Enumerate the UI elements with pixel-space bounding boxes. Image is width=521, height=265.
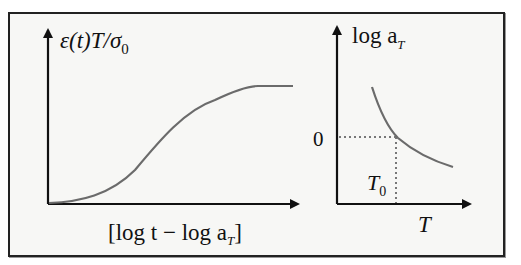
creep-master-curve: [49, 86, 293, 203]
left-y-axis-label: ε(t)T/σ0: [60, 28, 129, 57]
t0-marker-label: T0: [367, 170, 386, 199]
shift-factor-curve: [372, 87, 453, 167]
left-panel: ε(t)T/σ0 [log t − log aT]: [48, 28, 298, 248]
right-y-axis-label: log aT: [352, 23, 405, 52]
right-panel: log aT 0 T0 T: [313, 23, 470, 237]
y-tick-zero: 0: [313, 127, 324, 151]
right-x-axis-label: T: [418, 212, 433, 237]
left-x-axis-label: [log t − log aT]: [108, 220, 242, 248]
diagram-canvas: ε(t)T/σ0 [log t − log aT] log aT 0 T0 T: [0, 0, 521, 265]
